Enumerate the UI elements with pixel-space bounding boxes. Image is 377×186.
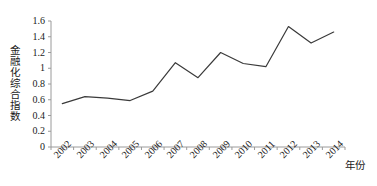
plot-area (0, 0, 377, 186)
x-axis-title: 年份 (345, 160, 365, 171)
axis-lines (48, 21, 345, 150)
financialization-index-line-chart: 金融化综合指数 00.20.40.60.811.21.41.6 20022003… (0, 0, 377, 186)
data-series-line (62, 27, 333, 104)
